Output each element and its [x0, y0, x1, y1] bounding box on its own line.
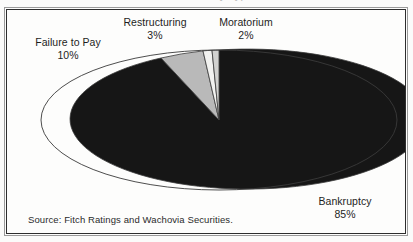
source-note: Source: Fitch Ratings and Wachovia Secur… [28, 214, 233, 225]
slice-label-failure-to-pay-pct: 10% [15, 49, 121, 62]
title-bleed-strip: Chart 3: Distribution of Credit Events b… [0, 0, 413, 7]
slice-label-restructuring-name: Restructuring [123, 16, 186, 28]
slice-label-moratorium-pct: 2% [204, 29, 288, 42]
slice-label-moratorium-name: Moratorium [219, 16, 273, 28]
pie-slice-bankruptcy[interactable] [70, 49, 405, 189]
slice-label-moratorium: Moratorium 2% [204, 16, 288, 41]
slice-label-bankruptcy: Bankruptcy 85% [293, 195, 397, 220]
slice-label-restructuring-pct: 3% [112, 29, 198, 42]
pie-chart-figure: Chart 3: Distribution of Credit Events b… [0, 0, 413, 242]
slice-label-failure-to-pay: Failure to Pay 10% [15, 36, 121, 61]
slice-label-bankruptcy-name: Bankruptcy [318, 195, 371, 207]
cut-off-title-text: Chart 3: Distribution of Credit Events b… [24, 0, 253, 1]
slice-label-restructuring: Restructuring 3% [112, 16, 198, 41]
plot-area: Restructuring 3% Moratorium 2% Failure t… [7, 10, 405, 233]
slice-label-failure-to-pay-name: Failure to Pay [35, 36, 100, 48]
slice-label-bankruptcy-pct: 85% [293, 208, 397, 221]
